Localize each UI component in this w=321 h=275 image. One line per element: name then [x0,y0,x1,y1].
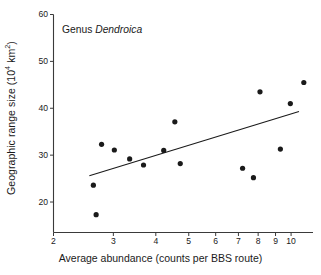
data-point [161,148,166,153]
data-point [127,156,132,161]
data-point [178,161,183,166]
data-point [278,146,283,151]
data-point [94,212,99,217]
data-point [301,80,306,85]
data-point [288,101,293,106]
data-point [141,162,146,167]
plot-canvas [0,0,321,275]
data-point [240,166,245,171]
trend-line [89,112,299,176]
axes [54,15,314,233]
data-point [91,183,96,188]
data-point [172,119,177,124]
data-point [251,175,256,180]
data-point [99,142,104,147]
scatter-plot-figure: Geographic range size (104 km2) 20304050… [0,0,321,275]
data-point [112,147,117,152]
data-points [91,80,307,217]
regression-line [89,112,299,176]
data-point [257,89,262,94]
